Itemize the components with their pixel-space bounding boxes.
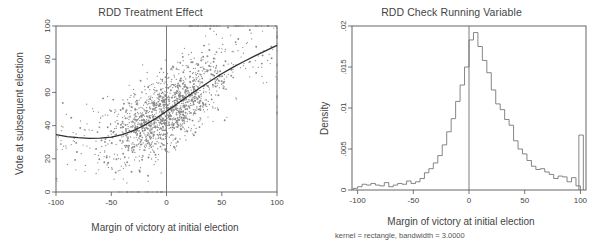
svg-text:-100: -100 xyxy=(48,198,65,207)
svg-text:100: 100 xyxy=(43,19,52,33)
x-ticks-left xyxy=(56,192,277,196)
svg-text:0: 0 xyxy=(339,187,348,192)
svg-text:0: 0 xyxy=(43,189,52,194)
x-tick-labels-right: -100 -50 0 50 100 xyxy=(350,196,588,205)
y-ticks-left xyxy=(52,26,56,192)
svg-text:-50: -50 xyxy=(408,196,420,205)
scatter-plot-svg: 0 20 40 60 80 100 -100 -50 0 50 100 xyxy=(0,0,301,243)
svg-text:50: 50 xyxy=(520,196,529,205)
svg-text:.01: .01 xyxy=(339,102,348,114)
y-ticks-right xyxy=(348,26,352,190)
svg-text:-100: -100 xyxy=(350,196,367,205)
svg-text:100: 100 xyxy=(574,196,588,205)
svg-text:60: 60 xyxy=(43,87,52,96)
svg-text:0: 0 xyxy=(467,196,472,205)
x-ticks-right xyxy=(358,190,581,194)
x-tick-labels-left: -100 -50 0 50 100 xyxy=(48,198,284,207)
panel-rdd-treatment-effect: RDD Treatment Effect Vote at subsequent … xyxy=(0,0,301,243)
histogram-plot-svg: 0 .005 .01 .015 .02 -100 -50 0 50 100 xyxy=(301,0,602,243)
svg-text:.015: .015 xyxy=(339,59,348,75)
boundary-spike-bar xyxy=(579,135,583,190)
svg-text:.005: .005 xyxy=(339,141,348,157)
svg-text:0: 0 xyxy=(164,198,169,207)
y-tick-labels-left: 0 20 40 60 80 100 xyxy=(43,19,52,194)
svg-text:20: 20 xyxy=(43,154,52,163)
rdd-figure: RDD Treatment Effect Vote at subsequent … xyxy=(0,0,602,243)
svg-text:.02: .02 xyxy=(339,20,348,32)
svg-text:-50: -50 xyxy=(106,198,118,207)
density-histogram-outline xyxy=(353,33,580,190)
y-tick-labels-right: 0 .005 .01 .015 .02 xyxy=(339,20,348,192)
svg-text:50: 50 xyxy=(217,198,226,207)
panel-rdd-check-running-variable: RDD Check Running Variable Density Margi… xyxy=(301,0,602,243)
svg-text:100: 100 xyxy=(270,198,284,207)
svg-text:80: 80 xyxy=(43,54,52,63)
svg-text:40: 40 xyxy=(43,121,52,130)
